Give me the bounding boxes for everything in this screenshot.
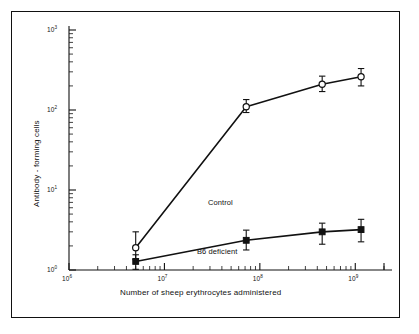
y-tick-label: 100 [47,265,57,273]
chart-plot-area [12,12,398,316]
x-tick-label: 108 [253,274,263,282]
series-label-b6-deficient: B6 deficient [197,247,237,256]
series-label-control: Control [208,198,233,207]
y-tick-label: 101 [47,185,57,193]
chart-screenshot: 100 101 102 103 106 107 108 109 Antibody… [0,0,419,334]
x-tick-label: 109 [348,274,358,282]
y-tick-label: 103 [47,25,57,33]
x-axis-title: Number of sheep erythrocytes administere… [120,288,281,297]
y-tick-label: 102 [47,105,57,113]
y-axis-title: Antibody - forming cells [32,120,41,207]
x-tick-label: 107 [157,274,167,282]
x-tick-label: 106 [62,274,72,282]
figure-frame: 100 101 102 103 106 107 108 109 Antibody… [11,11,400,318]
